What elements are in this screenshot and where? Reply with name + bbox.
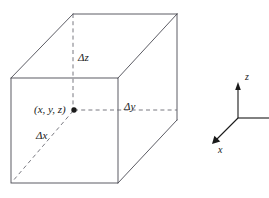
x-axis-line <box>216 118 238 140</box>
z-axis-arrowhead <box>235 82 241 90</box>
x-axis-label: x <box>218 145 222 155</box>
front-face <box>11 78 118 183</box>
top-left-connector <box>11 14 73 78</box>
point-coordinates-label: (x, y, z) <box>34 104 66 115</box>
box-hidden-and-measure-lines <box>12 14 177 182</box>
point-marker <box>71 107 76 112</box>
top-right-connector <box>118 14 177 78</box>
figure-canvas: Δz Δy Δx (x, y, z) z x <box>0 0 269 198</box>
delta-y-label: Δy <box>124 101 135 112</box>
delta-z-label: Δz <box>78 52 89 63</box>
delta-x-measure-line <box>12 111 73 182</box>
box-solid-edges <box>11 14 177 183</box>
z-axis-label: z <box>245 72 249 82</box>
axis-triad <box>216 88 269 140</box>
delta-x-label: Δx <box>36 130 47 141</box>
bottom-right-connector <box>118 120 177 183</box>
box-and-axes-drawing <box>0 0 269 198</box>
